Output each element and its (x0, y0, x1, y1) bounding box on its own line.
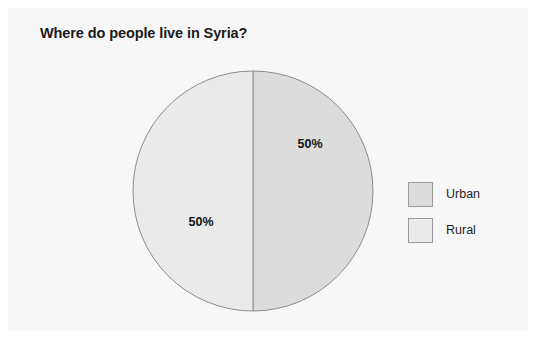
legend-swatch-urban-icon (408, 182, 433, 207)
chart-legend: Urban Rural (408, 176, 518, 248)
legend-label-urban: Urban (446, 187, 480, 201)
legend-item-rural[interactable]: Rural (408, 212, 518, 248)
pie-slice-label-urban: 50% (297, 137, 322, 151)
pie-slice-label-rural: 50% (188, 215, 213, 229)
pie-chart-svg (131, 69, 375, 313)
pie-slice-urban[interactable] (253, 71, 373, 311)
legend-item-urban[interactable]: Urban (408, 176, 518, 212)
chart-title: Where do people live in Syria? (40, 25, 247, 41)
legend-swatch-rural-icon (408, 218, 433, 243)
legend-label-rural: Rural (446, 223, 476, 237)
pie-chart: 50% 50% (131, 69, 375, 313)
pie-slice-rural[interactable] (133, 71, 253, 311)
chart-card: Where do people live in Syria? 50% 50% U… (8, 8, 528, 331)
